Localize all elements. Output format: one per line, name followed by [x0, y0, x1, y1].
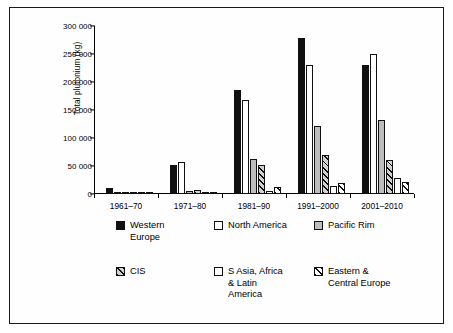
axes [94, 26, 414, 194]
bar [370, 54, 377, 194]
legend-item[interactable]: North America [214, 220, 287, 232]
legend-swatch-icon [314, 267, 323, 276]
x-tick-label: 2001–2010 [361, 201, 403, 211]
bar [362, 65, 369, 194]
x-tick-label: 1971–80 [174, 201, 206, 211]
legend-label: Eastern & Central Europe [328, 266, 391, 289]
x-tick-mark [94, 194, 95, 199]
bar [314, 126, 321, 194]
chart-frame: Total plutonium (kg) 050 000100 000150 0… [9, 7, 444, 324]
bar [138, 192, 145, 194]
y-tick-label: 200 000 [38, 78, 92, 87]
x-tick-label: 1961–70 [110, 201, 142, 211]
bar [322, 155, 329, 194]
bar [194, 190, 201, 194]
x-tick-mark [350, 194, 351, 199]
bar-group [158, 26, 222, 194]
x-tick-label: 1981–90 [238, 201, 270, 211]
legend-label: Western Europe [130, 220, 164, 243]
legend-swatch-icon [116, 267, 125, 276]
bar [298, 38, 305, 194]
bar [178, 162, 185, 194]
x-tick-mark [414, 194, 415, 199]
legend-item[interactable]: Western Europe [116, 220, 164, 243]
bar [330, 186, 337, 194]
x-tick-label: 1991–2000 [297, 201, 339, 211]
bar [306, 65, 313, 194]
y-tick-label: 250 000 [38, 50, 92, 59]
legend-item[interactable]: CIS [116, 266, 146, 278]
y-tick-label: 100 000 [38, 134, 92, 143]
bar [114, 192, 121, 194]
bar [402, 182, 409, 194]
bar [386, 160, 393, 194]
bar [266, 191, 273, 194]
bar [250, 159, 257, 194]
legend-label: Pacific Rim [328, 220, 375, 232]
bar [186, 191, 193, 194]
legend-swatch-icon [214, 267, 223, 276]
legend-row-1: Western EuropeNorth AmericaPacific Rim [94, 220, 424, 266]
legend-item[interactable]: Pacific Rim [314, 220, 375, 232]
y-tick-label: 150 000 [38, 106, 92, 115]
y-tick-label: 0 [38, 190, 92, 199]
legend-swatch-icon [116, 221, 125, 230]
legend-label: S Asia, Africa & Latin America [228, 266, 283, 301]
bar [394, 178, 401, 194]
bar-group [350, 26, 414, 194]
x-tick-mark [158, 194, 159, 199]
y-axis-tick-labels: 050 000100 000150 000200 000250 000300 0… [38, 26, 92, 194]
bar [122, 192, 129, 194]
bar [210, 192, 217, 194]
x-tick-mark [222, 194, 223, 199]
bar-group [94, 26, 158, 194]
legend-row-2: CISS Asia, Africa & Latin AmericaEastern… [94, 266, 424, 312]
bar [106, 188, 113, 194]
bar [338, 183, 345, 194]
x-tick-mark [286, 194, 287, 199]
bar [258, 165, 265, 194]
bar [378, 120, 385, 194]
y-tick-label: 50 000 [38, 162, 92, 171]
legend-item[interactable]: Eastern & Central Europe [314, 266, 391, 289]
bar [234, 90, 241, 194]
bar [274, 187, 281, 194]
y-tick-label: 300 000 [38, 22, 92, 31]
bar-group [222, 26, 286, 194]
bar [170, 165, 177, 194]
legend-item[interactable]: S Asia, Africa & Latin America [214, 266, 283, 301]
legend-swatch-icon [314, 221, 323, 230]
bar-group [286, 26, 350, 194]
bar [146, 192, 153, 194]
bar [202, 192, 209, 194]
bar [130, 192, 137, 194]
bar [242, 100, 249, 194]
chart-legend: Western EuropeNorth AmericaPacific Rim C… [94, 220, 424, 312]
legend-label: North America [228, 220, 287, 232]
legend-label: CIS [130, 266, 146, 278]
legend-swatch-icon [214, 221, 223, 230]
